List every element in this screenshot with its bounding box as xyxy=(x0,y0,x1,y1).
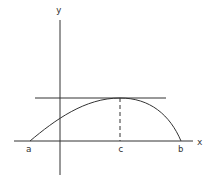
y-axis-label: y xyxy=(56,5,62,15)
x-axis-label: x xyxy=(197,137,203,147)
point-b-label: b xyxy=(178,144,183,154)
diagram-canvas: y x a c b xyxy=(0,0,213,184)
point-c-label: c xyxy=(118,144,123,154)
function-curve xyxy=(30,98,181,141)
point-a-label: a xyxy=(26,144,31,154)
